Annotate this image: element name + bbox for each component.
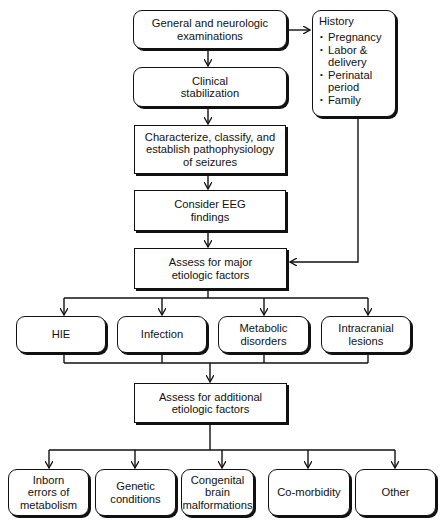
factor-metabolic-disorders-node: Metabolic disorders [218, 316, 309, 353]
node-label: Co-morbidity [277, 486, 340, 499]
node-label: Inborn errors of metabolism [20, 474, 77, 512]
factor-congenital-malformations-node: Congenital brain malformations [181, 469, 254, 516]
node-label: Infection [141, 328, 183, 341]
node-label: Congenital brain malformations [182, 474, 252, 512]
node-label: Metabolic disorders [240, 322, 288, 347]
general-neurologic-exam-node: General and neurologic examinations [133, 10, 287, 49]
assess-major-factors-node: Assess for major etiologic factors [134, 248, 287, 289]
node-label: Assess for additional etiologic factors [159, 391, 262, 416]
node-label: Clinical stabilization [181, 75, 239, 100]
node-label: Characterize, classify, and establish pa… [145, 131, 275, 169]
factor-inborn-errors-node: Inborn errors of metabolism [8, 469, 89, 516]
history-node: History Pregnancy Labor & delivery Perin… [312, 10, 396, 117]
history-item-family: Family [319, 94, 382, 107]
assess-additional-factors-node: Assess for additional etiologic factors [134, 383, 287, 423]
factor-infection-node: Infection [117, 316, 207, 353]
history-item-perinatal-period: Perinatal period [319, 69, 382, 94]
node-label: Intracranial lesions [338, 322, 393, 347]
history-item-pregnancy: Pregnancy [319, 31, 382, 44]
factor-other-node: Other [355, 469, 436, 516]
node-label: General and neurologic examinations [152, 17, 268, 42]
node-label: Genetic conditions [110, 480, 160, 505]
node-label: Assess for major etiologic factors [169, 256, 252, 281]
factor-hie-node: HIE [16, 316, 106, 353]
clinical-stabilization-node: Clinical stabilization [133, 67, 287, 107]
factor-comorbidity-node: Co-morbidity [268, 469, 350, 516]
factor-intracranial-lesions-node: Intracranial lesions [321, 316, 411, 353]
node-label: HIE [52, 328, 71, 341]
factor-genetic-conditions-node: Genetic conditions [95, 469, 176, 516]
characterize-seizures-node: Characterize, classify, and establish pa… [134, 125, 286, 174]
node-label: Consider EEG findings [174, 198, 246, 223]
consider-eeg-node: Consider EEG findings [134, 190, 286, 231]
history-list: Pregnancy Labor & delivery Perinatal per… [319, 31, 382, 106]
node-label: Other [382, 486, 410, 499]
history-title: History [319, 15, 354, 28]
history-item-labor-delivery: Labor & delivery [319, 44, 382, 69]
